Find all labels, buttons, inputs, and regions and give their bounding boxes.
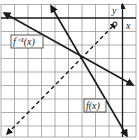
finv-label: f⁻¹(x) [13,36,36,48]
f-label: f(x) [86,100,101,112]
identity-line-endpoint-dot [113,22,117,26]
f-label-box: f(x) [84,99,106,112]
x-axis-label: x [125,20,131,31]
graph: f⁻¹(x) f(x) y x [0,0,139,140]
finv-label-box: f⁻¹(x) [11,35,43,48]
y-axis-label: y [111,5,117,16]
